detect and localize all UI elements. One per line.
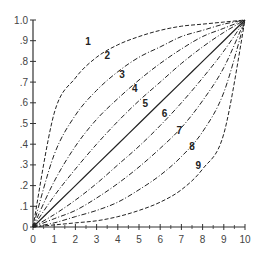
curve-label-3: 3	[119, 69, 125, 80]
y-tick-label: .8	[20, 56, 29, 67]
x-tick-label: 6	[157, 234, 163, 245]
y-tick-label: .9	[20, 35, 29, 46]
x-tick-label: 0	[30, 234, 36, 245]
curve-5	[33, 20, 245, 227]
curve-label-9: 9	[196, 160, 202, 171]
y-tick-label: .2	[20, 180, 29, 191]
x-tick-label: 7	[179, 234, 185, 245]
y-tick-label: .7	[20, 77, 29, 88]
curve-labels: 123456789	[85, 36, 201, 171]
curve-label-2: 2	[104, 50, 110, 61]
y-tick-label: .4	[20, 139, 29, 150]
x-tick-label: 2	[73, 234, 79, 245]
x-tick-label: 8	[200, 234, 206, 245]
curve-label-7: 7	[176, 125, 182, 136]
y-tick-label: .6	[20, 97, 29, 108]
x-tick-label: 4	[115, 234, 121, 245]
x-tick-label: 1	[51, 234, 57, 245]
y-tick-label: .5	[20, 118, 29, 129]
curve-label-4: 4	[132, 83, 138, 94]
x-tick-label: 10	[239, 234, 251, 245]
y-tick-label: 0	[22, 222, 28, 233]
curve-label-6: 6	[162, 108, 168, 119]
curve-label-5: 5	[143, 98, 149, 109]
caption	[20, 246, 250, 255]
y-tick-label: .1	[20, 201, 29, 212]
curve-label-8: 8	[189, 141, 195, 152]
x-tick-label: 9	[221, 234, 227, 245]
y-tick-label: .3	[20, 159, 29, 170]
x-tick-label: 3	[94, 234, 100, 245]
chart: 012345678910 0.1.2.3.4.5.6.7.8.91.0 1234…	[0, 0, 263, 255]
curves	[33, 20, 245, 227]
y-tick-label: 1.0	[14, 15, 28, 26]
curve-label-1: 1	[85, 36, 91, 47]
x-tick-label: 5	[136, 234, 142, 245]
